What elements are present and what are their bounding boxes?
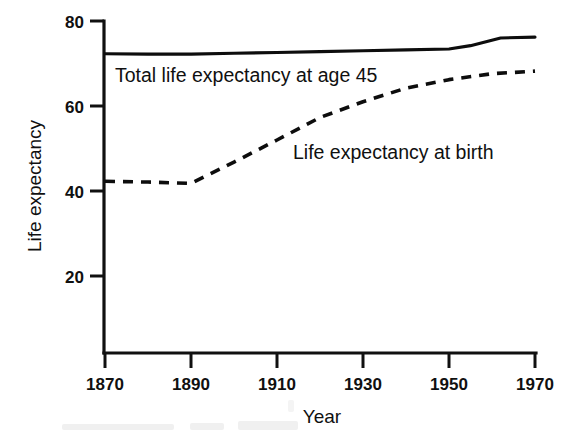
y-tick-label-60: 60 — [65, 98, 84, 117]
x-axis-title: Year — [303, 406, 342, 427]
y-tick-label-20: 20 — [65, 268, 84, 287]
scan-artifact-left — [62, 424, 174, 430]
scan-artifact-right — [238, 421, 298, 430]
series-annotation-total-life-expectancy: Total life expectancy at age 45 — [115, 64, 377, 86]
x-tick-label-1870: 1870 — [86, 375, 124, 394]
series-annotation-life-expectancy-birth: Life expectancy at birth — [293, 141, 494, 163]
scan-artifact-mid — [190, 423, 224, 430]
x-tick-label-1950: 1950 — [430, 375, 468, 394]
life-expectancy-chart: 80 60 40 20 1870 1890 1910 1930 1950 197… — [0, 0, 571, 434]
x-tick-label-1910: 1910 — [258, 375, 296, 394]
x-axis-ticks — [105, 353, 535, 368]
x-tick-label-1890: 1890 — [172, 375, 210, 394]
series-line-total-life-expectancy-age-45 — [105, 37, 535, 54]
y-axis-title: Life expectancy — [24, 119, 45, 252]
x-tick-label-1930: 1930 — [344, 375, 382, 394]
y-tick-label-80: 80 — [65, 13, 84, 32]
x-tick-label-1970: 1970 — [516, 375, 554, 394]
y-tick-label-40: 40 — [65, 183, 84, 202]
chart-canvas: 80 60 40 20 1870 1890 1910 1930 1950 197… — [0, 0, 571, 434]
scan-artifact-corner — [288, 400, 294, 412]
series-line-life-expectancy-at-birth — [105, 71, 535, 183]
y-axis-ticks — [90, 21, 104, 276]
